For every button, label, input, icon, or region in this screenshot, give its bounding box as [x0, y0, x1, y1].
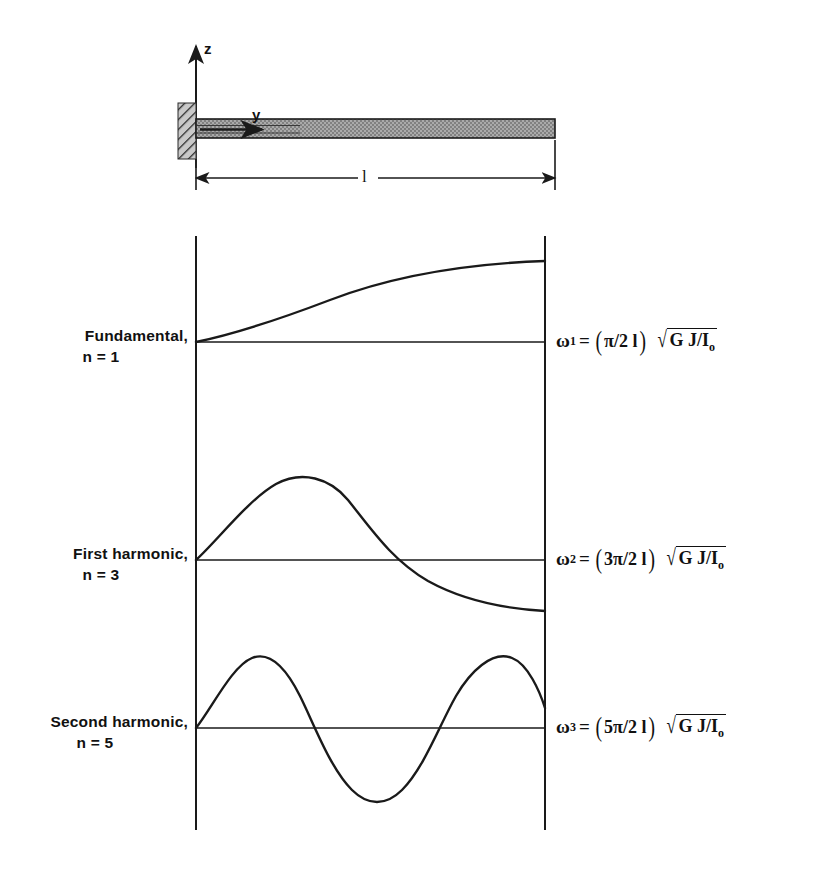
omega-index-1: 1	[570, 334, 576, 349]
frequency-equation-2: ω2 = ( 3π/2 l ) √ G J/Io	[556, 546, 726, 572]
mode-label-second-harmonic: Second harmonic, n = 5	[8, 711, 188, 754]
radical-group-3: √ G J/Io	[665, 714, 726, 740]
radicand-sub-1: o	[709, 340, 715, 354]
radical-sign-2: √	[666, 546, 675, 572]
coefficient-2: 3π/2 l	[603, 549, 647, 570]
left-paren-1: (	[595, 330, 602, 352]
mode-plot-first-harmonic	[196, 477, 545, 611]
frequency-equation-1: ω1 = ( π/2 l ) √ G J/Io	[556, 328, 717, 354]
mode-plot-fundamental	[196, 261, 545, 342]
radical-sign-3: √	[666, 714, 675, 740]
mode-plot-frame	[196, 236, 545, 830]
mode-label-second-harmonic-order: n = 5	[8, 732, 188, 753]
mode-label-first-harmonic-order: n = 3	[20, 564, 188, 585]
mode-label-first-harmonic: First harmonic, n = 3	[20, 543, 188, 586]
fixed-wall-support	[178, 103, 196, 159]
omega-index-2: 2	[570, 552, 576, 567]
left-paren-3: (	[595, 716, 602, 738]
equals-sign-1: =	[579, 330, 590, 352]
beam-length-label: l	[362, 167, 367, 187]
torsional-modes-figure: z y l Fundamental, n = 1 First harmonic,…	[0, 0, 833, 870]
left-paren-2: (	[595, 548, 602, 570]
omega-symbol-3: ω	[556, 716, 570, 738]
radicand-text-3: G J/I	[678, 716, 718, 736]
radicand-text-2: G J/I	[678, 548, 718, 568]
mode-label-second-harmonic-name: Second harmonic,	[8, 711, 188, 732]
coefficient-group-2: ( 3π/2 l )	[594, 548, 657, 570]
equals-sign-3: =	[579, 716, 590, 738]
radicand-2: G J/Io	[676, 546, 726, 572]
frequency-equation-3: ω3 = ( 5π/2 l ) √ G J/Io	[556, 714, 726, 740]
mode-label-fundamental: Fundamental, n = 1	[20, 325, 188, 368]
right-paren-3: )	[649, 716, 656, 738]
radicand-3: G J/Io	[676, 714, 726, 740]
mode-label-first-harmonic-name: First harmonic,	[20, 543, 188, 564]
y-axis-label: y	[252, 106, 260, 123]
omega-symbol-1: ω	[556, 330, 570, 352]
mode-plot-second-harmonic	[196, 656, 545, 802]
right-paren-2: )	[649, 548, 656, 570]
radical-group-2: √ G J/Io	[665, 546, 726, 572]
right-paren-1: )	[640, 330, 647, 352]
radical-group-1: √ G J/Io	[656, 328, 717, 354]
radicand-1: G J/Io	[667, 328, 717, 354]
radicand-sub-2: o	[718, 558, 724, 572]
mode-shape-curve-1	[196, 261, 545, 342]
coefficient-group-1: ( π/2 l )	[594, 330, 648, 352]
equals-sign-2: =	[579, 548, 590, 570]
radical-sign-1: √	[657, 328, 666, 354]
radicand-text-1: G J/I	[669, 330, 709, 350]
omega-index-3: 3	[570, 720, 576, 735]
coefficient-group-3: ( 5π/2 l )	[594, 716, 657, 738]
mode-label-fundamental-name: Fundamental,	[20, 325, 188, 346]
coefficient-1: π/2 l	[603, 331, 638, 352]
mode-shape-curve-2	[196, 477, 545, 611]
radicand-sub-3: o	[718, 726, 724, 740]
z-axis-label: z	[204, 40, 212, 57]
mode-label-fundamental-order: n = 1	[20, 346, 188, 367]
coefficient-3: 5π/2 l	[603, 717, 647, 738]
omega-symbol-2: ω	[556, 548, 570, 570]
mode-shape-curve-3	[196, 656, 545, 802]
